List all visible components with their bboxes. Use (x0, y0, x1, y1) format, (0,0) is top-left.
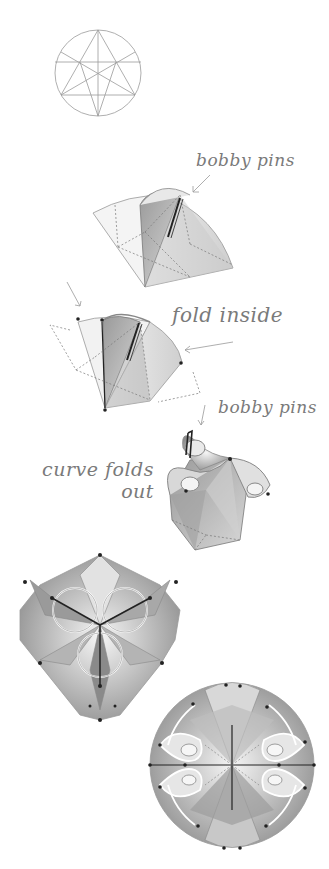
label-curve-folds-out: curve folds out (42, 458, 154, 502)
label-bobby-pins-1: bobby pins (196, 150, 295, 170)
step-2-fan-fold (93, 188, 233, 287)
step-4-curve-folds (168, 431, 271, 550)
label-bobby-pins-2: bobby pins (218, 397, 317, 417)
folding-diagram (0, 0, 329, 869)
arrow-bobby-pins-2 (198, 405, 205, 425)
step-3-fold-inside (50, 314, 200, 411)
arrow-left-corner (67, 282, 81, 306)
arrow-fold-inside (185, 342, 233, 353)
step-1-circle-pattern (55, 30, 141, 116)
step-6-four-lobed-sphere (148, 683, 316, 850)
label-fold-inside: fold inside (172, 303, 283, 327)
step-5-three-lobed-module (20, 553, 180, 722)
arrow-bobby-pins-1 (193, 175, 210, 192)
